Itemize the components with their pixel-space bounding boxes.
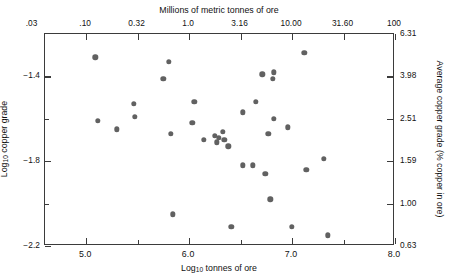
left-axis-tick xyxy=(45,246,51,247)
top-axis-tick xyxy=(344,34,345,40)
data-point xyxy=(304,167,309,172)
right-axis-tick-label: 6.31 xyxy=(400,28,417,38)
left-axis-minor-tick xyxy=(45,119,49,120)
data-point xyxy=(321,156,326,161)
data-point xyxy=(132,114,137,119)
bottom-axis-tick xyxy=(395,238,396,244)
data-point xyxy=(289,224,294,229)
top-axis-tick xyxy=(189,34,190,40)
right-axis-tick-label: 1.00 xyxy=(400,198,417,208)
data-point xyxy=(240,110,245,115)
data-point xyxy=(229,224,234,229)
right-axis-tick xyxy=(387,119,393,120)
data-point xyxy=(170,211,175,216)
data-point xyxy=(302,50,307,55)
right-axis-tick-label: 2.51 xyxy=(400,113,417,123)
left-axis-tick xyxy=(45,161,51,162)
bottom-axis-tick-label: 8.0 xyxy=(388,249,401,259)
data-point xyxy=(220,129,225,134)
plot-area xyxy=(44,33,394,245)
data-point xyxy=(226,144,231,149)
left-axis-tick-label: −2.2 xyxy=(6,240,40,250)
data-point xyxy=(240,163,245,168)
data-point xyxy=(93,55,98,60)
data-point xyxy=(190,120,195,125)
bottom-axis-title-subscript: 10 xyxy=(196,266,203,273)
bottom-axis-tick xyxy=(86,238,87,244)
data-point xyxy=(95,118,100,123)
data-point xyxy=(168,131,173,136)
data-point xyxy=(271,69,276,74)
bottom-axis-minor-tick xyxy=(241,240,242,244)
left-axis-tick xyxy=(45,76,51,77)
right-axis-tick xyxy=(387,161,393,162)
bottom-axis-tick xyxy=(292,238,293,244)
data-point xyxy=(325,233,330,238)
data-point xyxy=(250,163,255,168)
left-axis-minor-tick xyxy=(45,204,49,205)
left-axis-tick-label: −1.8 xyxy=(6,155,40,165)
bottom-axis-tick-label: 7.0 xyxy=(285,249,298,259)
top-axis-tick xyxy=(86,34,87,40)
top-axis-tick xyxy=(395,34,396,40)
data-point xyxy=(285,125,290,130)
top-axis-title: Millions of metric tonnes of ore xyxy=(159,5,278,15)
data-point xyxy=(268,197,273,202)
top-axis-tick xyxy=(292,34,293,40)
bottom-axis-title: Log10 tonnes of ore xyxy=(181,263,257,273)
bottom-axis-minor-tick xyxy=(344,240,345,244)
data-point xyxy=(266,131,271,136)
right-axis-tick-label: 1.59 xyxy=(400,155,417,165)
top-axis-tick-label: 1.0 xyxy=(182,18,194,28)
data-point xyxy=(114,127,119,132)
bottom-axis-tick xyxy=(189,238,190,244)
top-axis-tick-label: 3.16 xyxy=(231,18,248,28)
data-point xyxy=(161,76,166,81)
top-axis-tick xyxy=(138,34,139,40)
right-axis-tick xyxy=(387,204,393,205)
bottom-axis-title-suffix: tonnes of ore xyxy=(203,263,257,273)
right-axis-tick xyxy=(387,76,393,77)
left-axis-title: Log10 copper grade xyxy=(0,101,9,177)
data-point xyxy=(214,139,219,144)
top-axis-tick-label: 10.00 xyxy=(280,18,301,28)
data-point xyxy=(270,76,275,81)
bottom-axis-tick-label: 6.0 xyxy=(182,249,195,259)
bottom-axis-title-prefix: Log xyxy=(181,263,196,273)
data-point xyxy=(192,99,197,104)
top-axis-tick-label: 100 xyxy=(387,18,401,28)
bottom-axis-tick-label: 5.0 xyxy=(79,249,92,259)
top-axis-tick-label: 0.32 xyxy=(128,18,145,28)
data-points-layer xyxy=(45,34,393,244)
data-point xyxy=(131,101,136,106)
left-axis-tick-label: −1.4 xyxy=(6,70,40,80)
data-point xyxy=(221,137,226,142)
data-point xyxy=(263,171,268,176)
left-axis-title-suffix: copper grade xyxy=(0,101,9,155)
data-point xyxy=(271,116,276,121)
data-point xyxy=(260,72,265,77)
right-axis-title: Average copper grade (% copper in ore) xyxy=(435,61,445,218)
top-axis-tick xyxy=(241,34,242,40)
data-point xyxy=(166,59,171,64)
top-axis-tick-label: .03 xyxy=(26,18,38,28)
bottom-axis-minor-tick xyxy=(138,240,139,244)
top-axis-tick-label: 31.60 xyxy=(332,18,353,28)
right-axis-tick-label: 3.98 xyxy=(400,70,417,80)
top-axis-tick-label: .10 xyxy=(79,18,91,28)
data-point xyxy=(253,99,258,104)
right-axis-tick-label: 0.63 xyxy=(400,240,417,250)
scatter-plot-figure: Millions of metric tonnes of ore Log10 c… xyxy=(0,0,449,279)
data-point xyxy=(201,137,206,142)
